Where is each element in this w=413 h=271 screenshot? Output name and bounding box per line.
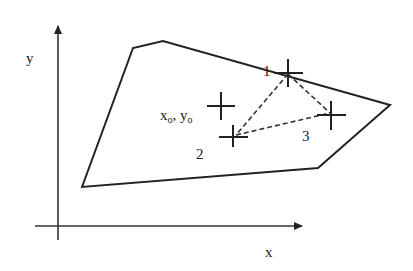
point-1-label: 1 [263,63,271,79]
diagram-canvas: y x xo, yo 1 2 3 [0,0,413,271]
x-axis-label: x [265,244,273,260]
point-2-label: 2 [196,146,204,162]
cross-marker-1 [274,59,303,87]
origin-point-label: xo, yo [160,107,193,125]
cross-marker-origin [207,92,235,120]
y-axis-label: y [26,50,34,66]
point-3-label: 3 [302,128,310,144]
cross-marker-2 [219,125,248,147]
cross-marker-3 [317,101,346,130]
